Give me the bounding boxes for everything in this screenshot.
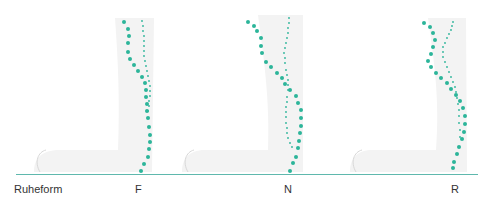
small-dot [146,70,148,72]
small-dot [143,45,145,47]
small-dot [450,76,452,78]
small-dot [285,106,287,108]
small-dot [442,46,444,48]
large-dot [252,24,256,28]
small-dot [451,25,453,27]
small-dot [448,33,450,35]
small-dot [285,122,287,124]
small-dot [291,146,293,148]
small-dot [288,17,290,19]
large-dot [269,65,273,69]
small-dot [285,116,287,118]
large-dot [298,131,302,135]
large-dot [454,93,458,97]
label-rest-form: Ruheform [14,183,62,195]
small-dot [446,66,448,68]
large-dot [457,145,461,149]
large-dot [422,21,426,25]
large-dot [146,116,150,120]
small-dot [149,95,151,97]
large-dot [140,75,144,79]
small-dot [458,109,460,111]
small-dot [456,97,458,99]
large-dot [297,139,301,143]
small-dot [286,96,288,98]
large-dot [126,27,130,31]
large-dot [144,95,148,99]
large-dot [299,108,303,112]
large-dot [458,99,462,103]
large-dot [147,147,151,151]
large-dot [148,133,152,137]
small-dot [145,65,147,67]
large-dot [264,60,268,64]
large-dot [139,169,143,173]
large-dot [463,114,467,118]
large-dot [144,88,148,92]
large-dot [299,124,303,128]
large-dot [128,57,132,61]
large-dot [132,63,136,67]
small-dot [454,86,456,88]
small-dot [287,27,289,29]
large-dot [452,160,456,164]
small-dot [452,21,454,23]
large-dot [431,31,435,35]
large-dot [148,140,152,144]
large-dot [426,59,430,63]
small-dot [287,137,289,139]
silhouette-r [350,18,467,172]
small-dot [284,47,286,49]
large-dot [246,20,250,24]
small-dot [442,56,444,58]
large-dot [145,109,149,113]
large-dot [280,76,284,80]
large-dot [127,34,131,38]
large-dot [299,116,303,120]
small-dot [149,90,151,92]
small-dot [141,20,143,22]
large-dot [259,44,263,48]
small-dot [143,55,145,57]
large-dot [288,88,292,92]
small-dot [285,111,287,113]
small-dot [287,84,289,86]
small-dot [142,30,144,32]
small-dot [458,115,460,117]
large-dot [288,169,292,173]
small-dot [284,62,286,64]
large-dot [462,130,466,134]
small-dot [444,61,446,63]
small-dot [442,51,444,53]
large-dot [431,45,435,49]
small-dot [286,132,288,134]
large-dot [296,146,300,150]
large-dot [147,125,151,129]
small-dot [444,42,446,44]
large-dot [439,76,443,80]
large-dot [455,152,459,156]
label-n: N [284,183,292,195]
small-dot [142,25,144,27]
large-dot [259,36,263,40]
small-dot [286,127,288,129]
small-dot [289,142,291,144]
small-dot [455,91,457,93]
small-dot [446,37,448,39]
large-dot [294,155,298,159]
large-dot [145,102,149,106]
large-dot [449,87,453,91]
small-dot [148,100,150,102]
small-dot [147,75,149,77]
label-f: F [135,183,142,195]
small-dot [457,103,459,105]
small-dot [284,57,286,59]
label-r: R [451,183,459,195]
large-dot [461,106,465,110]
large-dot [126,41,130,45]
large-dot [146,155,150,159]
large-dot [291,161,295,165]
large-dot [143,81,147,85]
large-dot [429,52,433,56]
small-dot [143,35,145,37]
